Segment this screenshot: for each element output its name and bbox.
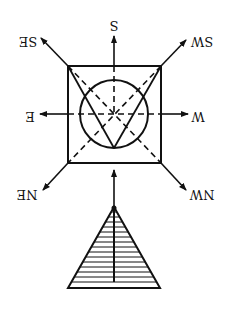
arrow-sw (161, 40, 186, 66)
label-e: E (25, 109, 35, 124)
arrow-se (41, 38, 68, 66)
hatched-triangle (60, 206, 170, 289)
label-ne: NE (17, 187, 38, 202)
compass-diagram: S SE SW E W NE NW (0, 0, 228, 313)
label-w: W (191, 109, 205, 124)
label-se: SE (19, 34, 37, 49)
direction-labels: S SE SW E W NE NW (17, 18, 215, 202)
arrow-ne (43, 163, 68, 190)
label-nw: NW (189, 187, 214, 202)
label-sw: SW (190, 34, 213, 49)
label-s: S (110, 18, 119, 33)
direction-arrows (40, 36, 188, 207)
arrow-nw (161, 163, 186, 190)
